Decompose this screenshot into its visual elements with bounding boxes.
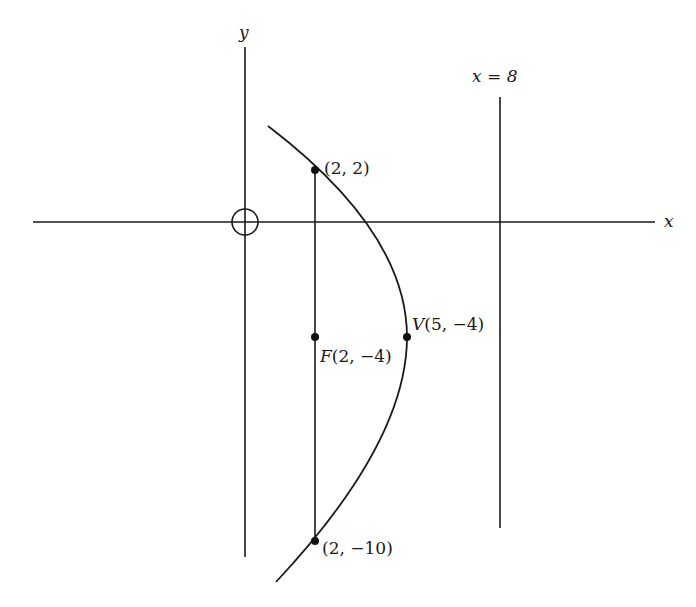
label-latus-bottom: (2, −10) [322, 538, 393, 558]
x-axis-label: x [664, 211, 674, 231]
label-focus: F(2, −4) [319, 346, 392, 366]
vertex-coords: (5, −4) [424, 314, 484, 334]
label-latus-top: (2, 2) [324, 158, 370, 178]
y-axis-label: y [238, 22, 249, 42]
point-focus [311, 333, 319, 341]
focus-coords: (2, −4) [332, 346, 392, 366]
point-latus-top [311, 166, 319, 174]
directrix-label: x = 8 [472, 66, 518, 86]
point-latus-bottom [311, 537, 319, 545]
point-vertex [403, 333, 411, 341]
label-vertex: V(5, −4) [412, 314, 484, 334]
parabola-diagram: x y x = 8 (2, 2) F(2, −4) V(5, −4) (2, −… [0, 0, 696, 607]
